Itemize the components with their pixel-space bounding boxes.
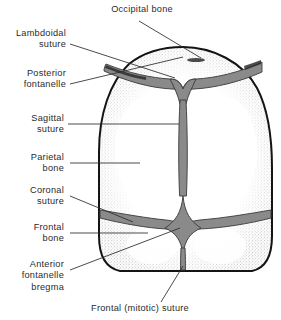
sagittal-suture-shape: [179, 100, 188, 196]
label-posterior-fontanelle: Posterior fontanelle: [0, 68, 66, 91]
label-frontal-bone: Frontal bone: [0, 222, 64, 245]
label-frontal-mitotic-suture: Frontal (mitotic) suture: [60, 303, 220, 314]
label-sagittal-suture: Sagittal suture: [0, 113, 64, 136]
label-parietal-bone: Parietal bone: [0, 152, 64, 175]
label-coronal-suture: Coronal suture: [0, 185, 64, 208]
label-anterior-fontanelle-bregma: Anterior fontanelle bregma: [0, 259, 64, 293]
label-lambdoidal-suture: Lambdoidal suture: [0, 28, 66, 51]
label-occipital-bone: Occipital bone: [78, 4, 206, 15]
